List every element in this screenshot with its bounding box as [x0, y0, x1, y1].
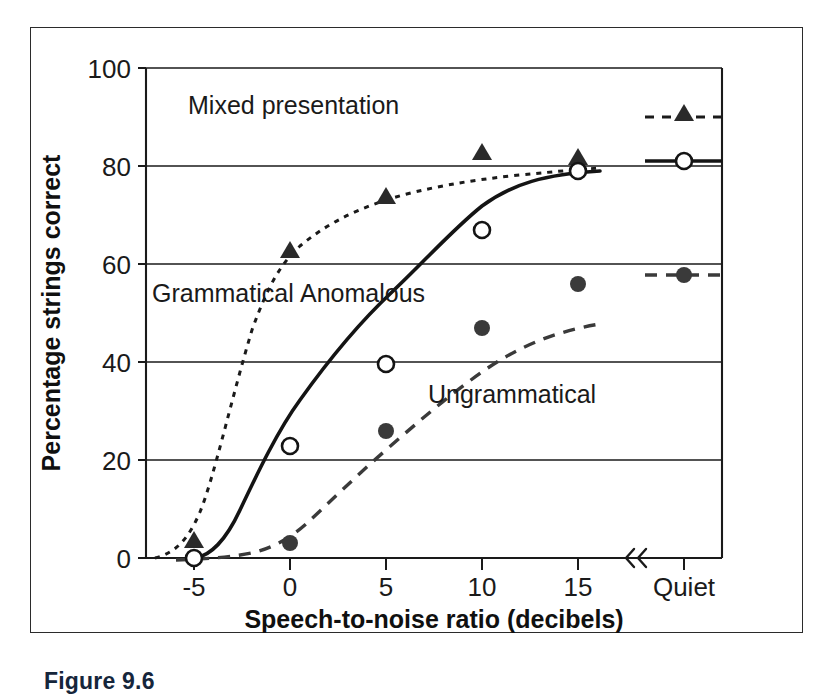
marker-circle-open-15 [570, 163, 586, 179]
series-ungrammatical [176, 275, 722, 560]
y-tick-labels: 100 80 60 40 20 0 [88, 54, 131, 574]
marker-circle-filled-0 [282, 535, 298, 551]
y-tick-label-40: 40 [102, 348, 131, 378]
y-tick-label-100: 100 [88, 54, 131, 84]
marker-circle-open-5 [378, 356, 394, 372]
marker-circle-open-0 [282, 438, 298, 454]
figure-root: 100 80 60 40 20 0 Percentage strings cor… [0, 0, 823, 697]
x-tick-label-15: 15 [564, 572, 593, 602]
marker-circle-filled-15 [570, 276, 586, 292]
marker-circle-filled-5 [378, 423, 394, 439]
y-tick-label-60: 60 [102, 250, 131, 280]
x-tick-label-quiet: Quiet [653, 572, 716, 602]
annotation-anomalous: Anomalous [300, 279, 425, 307]
series-anomalous-line [195, 171, 600, 558]
marker-circle-filled-quiet [676, 267, 692, 283]
marker-triangle--5 [184, 531, 204, 548]
y-tick-label-80: 80 [102, 152, 131, 182]
marker-circle-open--5 [186, 550, 202, 566]
annotation-ungrammatical: Ungrammatical [428, 380, 596, 408]
series-grammatical [155, 117, 722, 558]
chart-canvas: 100 80 60 40 20 0 Percentage strings cor… [0, 0, 823, 697]
marker-circle-filled-10 [474, 320, 490, 336]
marker-circle-open-10 [474, 222, 490, 238]
series-anomalous [195, 161, 722, 558]
x-tick-label-0: 0 [283, 572, 297, 602]
x-tick-labels: -5 0 5 10 15 Quiet [182, 572, 715, 602]
x-tick-label-5: 5 [379, 572, 393, 602]
markers-grammatical [184, 104, 694, 548]
markers-anomalous [186, 153, 692, 566]
x-tick-label--5: -5 [182, 572, 205, 602]
x-axis-title: Speech-to-noise ratio (decibels) [244, 605, 623, 633]
marker-triangle-quiet [674, 104, 694, 121]
marker-triangle-10 [472, 143, 492, 160]
x-tick-label-10: 10 [468, 572, 497, 602]
markers-ungrammatical [282, 267, 692, 551]
axes [146, 68, 722, 558]
figure-caption: Figure 9.6 [44, 668, 155, 697]
x-ticks [194, 558, 684, 570]
annotation-grammatical: Grammatical [152, 279, 294, 307]
y-axis-title: Percentage strings correct [37, 154, 65, 471]
y-tick-label-0: 0 [117, 544, 131, 574]
y-tick-label-20: 20 [102, 446, 131, 476]
marker-circle-open-quiet [676, 153, 692, 169]
annotation-mixed-presentation: Mixed presentation [188, 91, 399, 119]
marker-triangle-0 [280, 241, 300, 258]
y-ticks [138, 68, 146, 558]
marker-triangle-5 [376, 187, 396, 204]
